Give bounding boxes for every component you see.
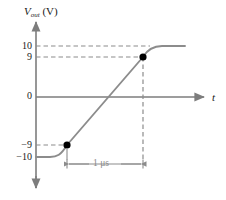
dashed-guides [36,46,150,160]
y-axis-title: Vout (V) [24,6,58,19]
interval-label: 1 μs [93,159,109,169]
y-tick-label-9: 9 [12,52,32,62]
y-axis-title-sub: out [31,11,40,19]
y-tick-label-neg10: −10 [8,152,32,162]
y-tick-label-0: 0 [12,91,32,101]
y-axis-title-var: V [24,5,31,17]
data-point-pos9 [139,53,146,60]
y-axis-title-unit: (V) [40,5,58,17]
x-axis-title: t [212,92,215,103]
y-tick-label-10: 10 [12,41,32,51]
figure-canvas [0,0,226,200]
slew-rate-figure: Vout (V) t 10 9 0 −9 −10 1 μs [0,0,226,200]
output-curve [36,46,185,157]
y-tick-label-neg9: −9 [8,140,32,150]
data-point-neg9 [63,141,70,148]
